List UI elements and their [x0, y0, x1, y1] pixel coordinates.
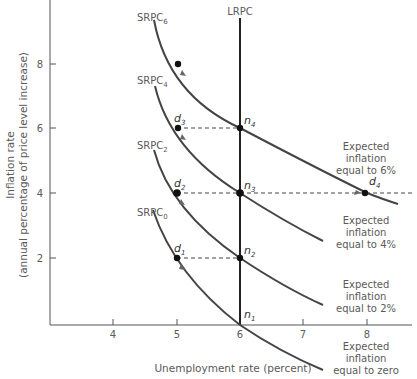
srpc4-label: SRPC4 — [137, 75, 168, 89]
srpc0-label: SRPC0 — [137, 207, 168, 221]
point-srpc6-8 — [175, 61, 181, 67]
y-tick-2: 2 — [37, 253, 43, 264]
y-axis-label-line1: Inflation rate — [4, 131, 16, 199]
label-n4: n4 — [244, 114, 255, 129]
svg-text:Expected: Expected — [343, 279, 390, 290]
annotation-4: Expected inflation equal to 4% — [336, 215, 396, 250]
svg-text:inflation: inflation — [346, 227, 387, 238]
svg-text:equal to 4%: equal to 4% — [336, 239, 396, 250]
y-tick-4: 4 — [37, 188, 43, 199]
x-tick-7: 7 — [300, 329, 306, 340]
svg-text:inflation: inflation — [346, 291, 387, 302]
annotation-0: Expected inflation equal to zero — [333, 341, 399, 376]
label-d4: d4 — [369, 175, 380, 190]
srpc-labels: SRPC6 SRPC4 SRPC2 SRPC0 — [137, 12, 168, 221]
svg-text:inflation: inflation — [346, 153, 387, 164]
svg-text:Expected: Expected — [343, 215, 390, 226]
x-tick-6: 6 — [237, 329, 243, 340]
srpc0-curve — [153, 210, 323, 370]
point-n2 — [237, 255, 243, 261]
svg-text:equal to zero: equal to zero — [333, 365, 399, 376]
point-n4 — [237, 125, 243, 131]
srpc6-label: SRPC6 — [137, 12, 168, 26]
point-d2 — [173, 189, 181, 197]
x-axis-label: Unemployment rate (percent) — [154, 362, 311, 374]
y-tick-8: 8 — [37, 59, 43, 70]
svg-text:inflation: inflation — [346, 353, 387, 364]
srpc6-curve — [154, 20, 398, 204]
label-d1: d1 — [174, 242, 185, 257]
y-axis-label-line2: (annual percentage of price level increa… — [17, 52, 29, 278]
phillips-curve-chart: 8 6 4 2 4 5 6 7 8 Unemployment rate (per… — [0, 0, 417, 379]
svg-text:Expected: Expected — [343, 141, 390, 152]
svg-text:equal to 2%: equal to 2% — [336, 303, 396, 314]
point-d4 — [362, 190, 368, 196]
label-n2: n2 — [244, 244, 256, 259]
label-d3: d3 — [174, 112, 185, 127]
data-points — [173, 61, 368, 261]
svg-text:equal to 6%: equal to 6% — [336, 165, 396, 176]
label-d2: d2 — [174, 177, 186, 192]
x-tick-5: 5 — [174, 329, 180, 340]
y-axis-label: Inflation rate (annual percentage of pri… — [4, 52, 29, 278]
svg-text:Expected: Expected — [343, 341, 390, 352]
y-tick-6: 6 — [37, 123, 43, 134]
x-tick-8: 8 — [364, 329, 370, 340]
annotation-2: Expected inflation equal to 2% — [336, 279, 396, 314]
x-tick-4: 4 — [110, 329, 116, 340]
srpc2-label: SRPC2 — [137, 140, 168, 154]
label-n1: n1 — [244, 308, 255, 323]
annotation-6: Expected inflation equal to 6% — [336, 141, 396, 176]
lrpc-label: LRPC — [227, 6, 253, 17]
point-d1 — [174, 255, 180, 261]
arrow-markers — [179, 70, 361, 270]
point-n3 — [236, 189, 244, 197]
label-n3: n3 — [244, 179, 255, 194]
y-ticks: 8 6 4 2 — [37, 59, 56, 264]
